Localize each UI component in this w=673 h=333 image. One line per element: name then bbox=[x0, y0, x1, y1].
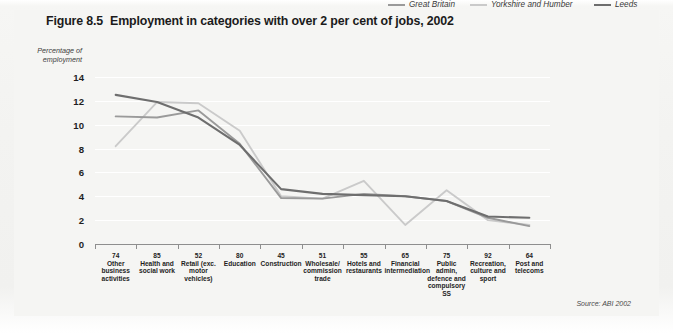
legend-label: Great Britain bbox=[409, 0, 455, 9]
x-axis-category-label: 74Other business activities bbox=[95, 252, 136, 282]
category-code: 74 bbox=[95, 252, 136, 260]
category-code: 80 bbox=[219, 252, 260, 260]
category-name: Recreation, culture and sport bbox=[470, 260, 506, 282]
x-axis-category-label: 80Education bbox=[219, 252, 260, 267]
x-axis-category-label: 64Post and telecoms bbox=[509, 252, 550, 275]
category-code: 85 bbox=[136, 252, 177, 260]
category-name: Public admin, defence and compulsory SS bbox=[427, 260, 465, 297]
category-code: 51 bbox=[302, 252, 343, 260]
category-name: Post and telecoms bbox=[515, 260, 544, 275]
legend-item: Leeds bbox=[594, 0, 637, 9]
category-code: 52 bbox=[178, 252, 219, 260]
category-code: 75 bbox=[426, 252, 467, 260]
x-axis-category-label: 75Public admin, defence and compulsory S… bbox=[426, 252, 467, 298]
legend-swatch bbox=[470, 4, 487, 6]
x-axis-category-label: 52Retail (exc. motor vehicles) bbox=[178, 252, 219, 282]
x-axis-category-label: 85Health and social work bbox=[136, 252, 177, 275]
figure-container: Figure 8.5Employment in categories with … bbox=[0, 0, 673, 333]
category-name: Other business activities bbox=[101, 260, 130, 282]
x-axis-category-label: 65Financial intermediation bbox=[385, 252, 426, 275]
legend-swatch bbox=[594, 4, 611, 6]
legend-label: Yorkshire and Humber bbox=[491, 0, 572, 9]
legend-item: Yorkshire and Humber bbox=[470, 0, 572, 9]
category-name: Retail (exc. motor vehicles) bbox=[181, 260, 216, 282]
plot-area: 02468101214 74Other business activities8… bbox=[0, 0, 673, 333]
x-axis-category-label: 51Wholesale/ commission trade bbox=[302, 252, 343, 282]
category-name: Hotels and restaurants bbox=[346, 260, 382, 275]
category-name: Education bbox=[224, 260, 256, 267]
legend-item: Great Britain bbox=[388, 0, 455, 9]
x-axis-category-label: 55Hotels and restaurants bbox=[343, 252, 384, 275]
category-name: Financial intermediation bbox=[385, 260, 430, 275]
category-name: Wholesale/ commission trade bbox=[303, 260, 341, 282]
category-code: 92 bbox=[467, 252, 508, 260]
category-code: 55 bbox=[343, 252, 384, 260]
category-code: 45 bbox=[260, 252, 301, 260]
legend-label: Leeds bbox=[615, 0, 637, 9]
series-lines bbox=[0, 0, 673, 333]
legend-swatch bbox=[388, 4, 405, 6]
x-axis-category-label: 45Construction bbox=[260, 252, 301, 267]
source-note: Source: ABI 2002 bbox=[576, 300, 631, 307]
x-axis-category-label: 92Recreation, culture and sport bbox=[467, 252, 508, 282]
category-code: 64 bbox=[509, 252, 550, 260]
category-code: 65 bbox=[385, 252, 426, 260]
category-name: Construction bbox=[261, 260, 302, 267]
category-name: Health and social work bbox=[139, 260, 175, 275]
series-line bbox=[116, 102, 530, 225]
